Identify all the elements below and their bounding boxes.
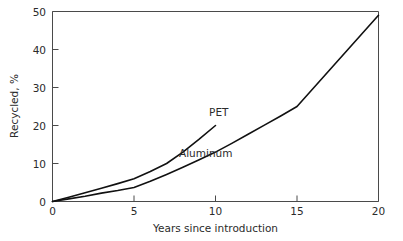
x-tick-label-5: 5: [131, 205, 138, 217]
y-tick-label-0: 0: [39, 196, 46, 208]
y-tick-labels: 50 40 30 20 10 0: [33, 6, 46, 208]
series-label-aluminum: Aluminum: [179, 147, 232, 159]
y-tick-label-50: 50: [33, 6, 46, 18]
x-tick-label-20: 20: [372, 205, 385, 217]
x-tick-label-10: 10: [209, 205, 222, 217]
y-tick-label-40: 40: [33, 44, 46, 56]
y-tickmarks: [53, 12, 59, 202]
y-tick-label-20: 20: [33, 120, 46, 132]
x-tick-label-0: 0: [49, 205, 56, 217]
x-tickmarks: [53, 196, 379, 202]
y-tick-label-10: 10: [33, 158, 46, 170]
series-label-pet: PET: [209, 106, 229, 118]
y-axis-title: Recycled, %: [8, 74, 20, 138]
chart-figure: 50 40 30 20 10 0 0 5 10 15 20 Years sinc…: [0, 0, 403, 241]
x-tick-labels: 0 5 10 15 20: [49, 205, 385, 217]
x-axis-title: Years since introduction: [152, 222, 278, 234]
line-chart-svg: 50 40 30 20 10 0 0 5 10 15 20 Years sinc…: [0, 0, 403, 241]
x-tick-label-15: 15: [290, 205, 303, 217]
y-tick-label-30: 30: [33, 82, 46, 94]
